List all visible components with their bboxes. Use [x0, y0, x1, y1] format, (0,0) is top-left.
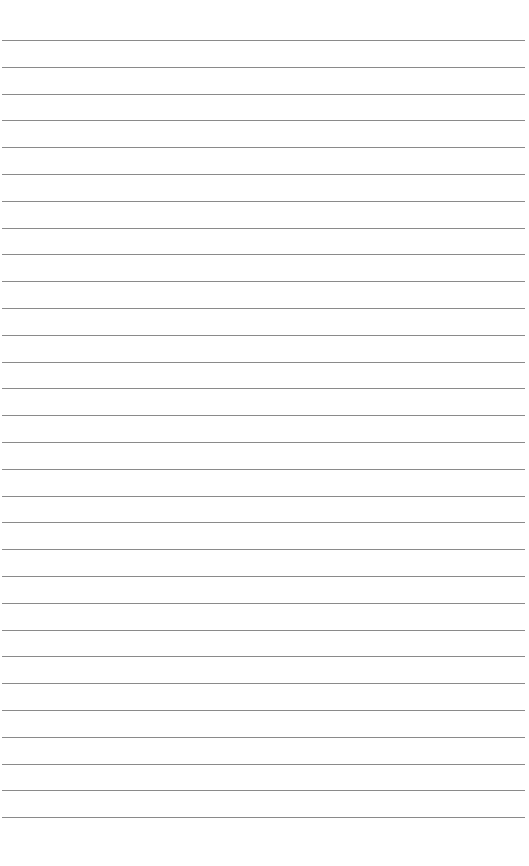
- ruled-line: [2, 496, 525, 497]
- ruled-line: [2, 710, 525, 711]
- ruled-line: [2, 254, 525, 255]
- ruled-line: [2, 388, 525, 389]
- ruled-line: [2, 201, 525, 202]
- ruled-line: [2, 817, 525, 818]
- ruled-line: [2, 549, 525, 550]
- ruled-line: [2, 147, 525, 148]
- ruled-line: [2, 603, 525, 604]
- ruled-line: [2, 120, 525, 121]
- ruled-line: [2, 94, 525, 95]
- ruled-line: [2, 281, 525, 282]
- ruled-line: [2, 362, 525, 363]
- ruled-line: [2, 308, 525, 309]
- ruled-line: [2, 174, 525, 175]
- ruled-line: [2, 522, 525, 523]
- ruled-line: [2, 228, 525, 229]
- ruled-line: [2, 442, 525, 443]
- ruled-line: [2, 67, 525, 68]
- ruled-line: [2, 630, 525, 631]
- ruled-line: [2, 40, 525, 41]
- ruled-line: [2, 737, 525, 738]
- ruled-line: [2, 335, 525, 336]
- ruled-line: [2, 764, 525, 765]
- ruled-line: [2, 469, 525, 470]
- ruled-line: [2, 415, 525, 416]
- ruled-line: [2, 656, 525, 657]
- ruled-line: [2, 790, 525, 791]
- ruled-line: [2, 576, 525, 577]
- ruled-line: [2, 683, 525, 684]
